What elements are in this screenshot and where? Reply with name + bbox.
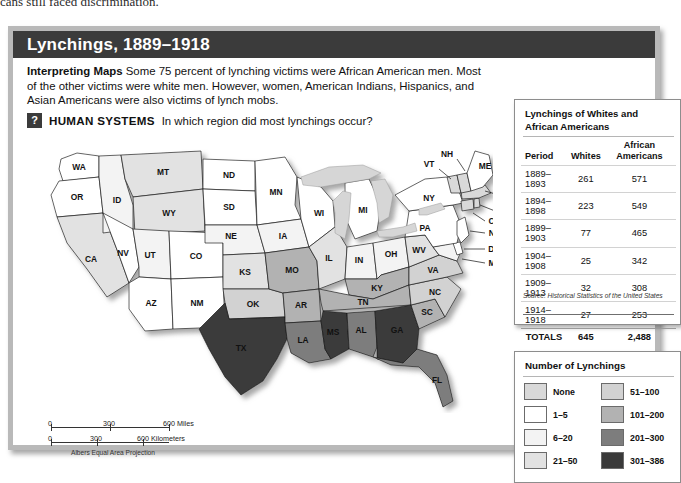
legend-item: 21–50 bbox=[524, 449, 577, 472]
state-label-MO: MO bbox=[285, 265, 299, 275]
state-label-MI: MI bbox=[358, 205, 367, 215]
cell-whites: 261 bbox=[569, 166, 603, 193]
question-row: ? HUMAN SYSTEMS In which region did most… bbox=[27, 113, 373, 128]
table-totals-row: TOTALS 645 2,488 bbox=[521, 329, 676, 346]
cell-african-americans: 549 bbox=[603, 193, 676, 220]
legend-label: 1–5 bbox=[553, 410, 568, 420]
legend-swatch bbox=[524, 429, 547, 446]
state-label-WY: WY bbox=[162, 208, 176, 218]
state-label-WV: WV bbox=[412, 245, 426, 255]
state-label-CO: CO bbox=[190, 251, 203, 261]
cell-totals-african-americans: 2,488 bbox=[603, 329, 676, 346]
caption-lead: Interpreting Maps bbox=[27, 65, 123, 77]
table-header-african-americans: African Americans bbox=[603, 138, 676, 166]
state-label-ND: ND bbox=[223, 170, 235, 180]
leader-NH bbox=[457, 159, 465, 171]
state-NJ bbox=[457, 217, 469, 243]
lake-michigan bbox=[333, 191, 351, 239]
table-row: 1899–1903 77 465 bbox=[521, 220, 676, 247]
state-label-IN: IN bbox=[355, 255, 363, 265]
legend-column-right: 51–100 101–200 201–300 301–386 bbox=[601, 380, 664, 472]
cell-period: 1899–1903 bbox=[521, 220, 569, 247]
scale-km-end: 600 Kilometers bbox=[137, 434, 185, 443]
legend-label: 301–386 bbox=[630, 456, 664, 466]
leader-MD bbox=[462, 259, 485, 263]
legend-item: 6–20 bbox=[524, 426, 577, 449]
state-label-NJ: NJ bbox=[489, 228, 493, 238]
state-label-SC: SC bbox=[421, 307, 433, 317]
state-label-DE: DE bbox=[488, 244, 493, 254]
table-row: 1894–1898 223 549 bbox=[521, 193, 676, 220]
state-label-OH: OH bbox=[385, 249, 398, 259]
legend-title: Number of Lynchings bbox=[525, 360, 625, 371]
state-label-LA: LA bbox=[297, 335, 308, 345]
legend-item: 201–300 bbox=[601, 426, 664, 449]
table-row: 1914–1918 27 253 bbox=[521, 301, 676, 328]
figure-title-bar: Lynchings, 1889–1918 bbox=[13, 31, 655, 58]
legend-item: 301–386 bbox=[601, 449, 664, 472]
table-row: 1904–1908 25 342 bbox=[521, 247, 676, 274]
legend-swatch bbox=[524, 383, 547, 400]
question-mark-icon: ? bbox=[27, 113, 42, 128]
leader-RI bbox=[480, 205, 493, 211]
cell-african-americans: 465 bbox=[603, 220, 676, 247]
state-label-TN: TN bbox=[357, 297, 368, 307]
table-title-rule bbox=[523, 136, 674, 137]
cell-totals-label: TOTALS bbox=[521, 329, 569, 346]
state-label-PA: PA bbox=[419, 223, 430, 233]
state-label-WI: WI bbox=[314, 208, 324, 218]
legend-swatch bbox=[601, 406, 624, 423]
cell-period: 1914–1918 bbox=[521, 301, 569, 328]
legend-label: 6–20 bbox=[553, 433, 573, 443]
state-label-VT: VT bbox=[424, 159, 436, 169]
cell-whites: 223 bbox=[569, 193, 603, 220]
state-label-GA: GA bbox=[391, 325, 404, 335]
legend-item: None bbox=[524, 380, 577, 403]
legend-swatch bbox=[601, 429, 624, 446]
state-label-NV: NV bbox=[117, 248, 129, 258]
state-label-ME: ME bbox=[479, 161, 492, 171]
legend-label: None bbox=[553, 387, 575, 397]
figure-title: Lynchings, 1889–1918 bbox=[27, 35, 210, 55]
state-ME bbox=[467, 151, 493, 191]
legend-label: 201–300 bbox=[630, 433, 664, 443]
state-label-VA: VA bbox=[427, 265, 438, 275]
map-projection-label: Albers Equal Area Projection bbox=[71, 449, 155, 456]
cell-period: 1894–1898 bbox=[521, 193, 569, 220]
state-label-NH: NH bbox=[441, 149, 453, 159]
scale-miles-mid: 300 bbox=[103, 419, 115, 428]
cell-period: 1904–1908 bbox=[521, 247, 569, 274]
table-header-whites: Whites bbox=[569, 138, 603, 166]
state-label-IL: IL bbox=[325, 253, 332, 263]
legend-label: 21–50 bbox=[553, 456, 577, 466]
state-label-MT: MT bbox=[157, 167, 170, 177]
map-scale-bar: 0 300 600 Miles 0 300 600 Kilometers Alb… bbox=[45, 423, 235, 450]
cell-african-americans: 253 bbox=[603, 301, 676, 328]
cell-totals-whites: 645 bbox=[569, 329, 603, 346]
state-label-NE: NE bbox=[225, 231, 237, 241]
cell-period: 1889–1893 bbox=[521, 166, 569, 193]
state-CT bbox=[461, 199, 474, 211]
us-choropleth-map: WA OR CA ID NV MT WY UT CO AZ NM ND SD N… bbox=[33, 143, 493, 413]
cell-whites: 27 bbox=[569, 301, 603, 328]
state-label-MD: MD bbox=[488, 258, 493, 268]
state-label-KS: KS bbox=[239, 267, 251, 277]
page-running-text: cans still faced discrimination. bbox=[0, 0, 400, 10]
map-legend-panel: Number of Lynchings None 1–5 6–20 21–5 bbox=[514, 351, 681, 483]
table-title: Lynchings of Whites and African American… bbox=[525, 108, 673, 133]
state-label-OK: OK bbox=[247, 299, 260, 309]
legend-item: 51–100 bbox=[601, 380, 664, 403]
figure-inner: Lynchings, 1889–1918 Interpreting Maps S… bbox=[13, 31, 655, 445]
scale-km-mid: 300 bbox=[90, 434, 102, 443]
state-label-CA: CA bbox=[85, 254, 97, 264]
state-label-WA: WA bbox=[72, 162, 86, 172]
legend-swatch bbox=[524, 406, 547, 423]
state-label-OR: OR bbox=[71, 192, 84, 202]
cell-african-americans: 571 bbox=[603, 166, 676, 193]
legend-label: 51–100 bbox=[630, 387, 659, 397]
state-label-IA: IA bbox=[279, 231, 287, 241]
state-label-MN: MN bbox=[269, 187, 282, 197]
table-bottom-rule bbox=[523, 314, 674, 315]
scale-km-start: 0 bbox=[48, 434, 52, 443]
state-label-SD: SD bbox=[223, 202, 235, 212]
